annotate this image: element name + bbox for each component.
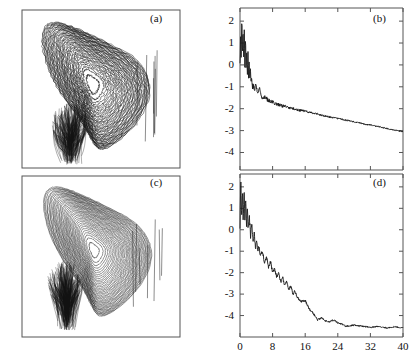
- panel-d-ytick-1: 1: [218, 201, 234, 213]
- panel-b-ytick-5: -3: [218, 124, 234, 136]
- panel-d-curve: [240, 182, 403, 329]
- panel-b-ytick-2: 0: [218, 58, 234, 70]
- panel-b-curve: [240, 24, 403, 132]
- panel-label-a: (a): [150, 12, 162, 24]
- panel-d-xtick-3: 24: [328, 340, 348, 352]
- panel-b-ytick-3: -1: [218, 80, 234, 92]
- panel-d-ytick-6: -4: [218, 309, 234, 321]
- panel-d-ytick-5: -3: [218, 287, 234, 299]
- panel-label-c: (c): [150, 176, 162, 188]
- panel-b-ytick-0: 2: [218, 14, 234, 26]
- panel-d-xtick-4: 32: [360, 340, 380, 352]
- panel-b-ytick-4: -2: [218, 102, 234, 114]
- panel-b-ytick-6: -4: [218, 145, 234, 157]
- panel-d-ytick-0: 2: [218, 180, 234, 192]
- panel-d-ytick-2: 0: [218, 223, 234, 235]
- panel-label-b: (b): [373, 12, 386, 24]
- panel-d-ytick-4: -2: [218, 266, 234, 278]
- panel-d-xtick-5: 40: [393, 340, 413, 352]
- panel-d-axes: [240, 174, 403, 337]
- figure-container: (a) (b) (c) (d) 210-1-2-3-4210-1-2-3-408…: [0, 0, 416, 359]
- panel-b-axes: [240, 8, 403, 170]
- panel-label-d: (d): [373, 176, 386, 188]
- panel-d-xtick-1: 8: [263, 340, 283, 352]
- panel-b-ytick-1: 1: [218, 36, 234, 48]
- panel-d-xtick-2: 16: [295, 340, 315, 352]
- figure-svg: [0, 0, 416, 359]
- panel-d-ytick-3: -1: [218, 244, 234, 256]
- panel-d-xtick-0: 0: [230, 340, 250, 352]
